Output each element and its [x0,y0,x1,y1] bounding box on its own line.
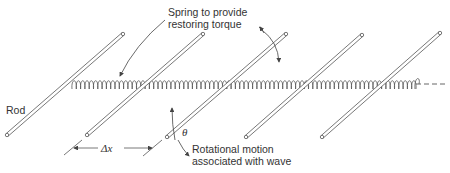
rotation-arrow-bottom-up [172,108,175,140]
rotation-label-line2: associated with wave [192,155,291,167]
spring-label-line2: restoring torque [168,18,242,30]
theta-label: θ [182,126,188,138]
rod-label: Rod [6,104,25,116]
rod-4 [244,33,363,138]
spring-pointer-arrow [120,20,165,76]
rods [5,31,441,138]
spring-coil-path [72,79,419,89]
rotation-arrow-top-head [260,27,264,33]
diagram-canvas: Spring to provide restoring torque Rod Δ… [0,0,450,173]
delta-x-label: Δx [100,142,112,154]
rotation-label-line1: Rotational motion [192,143,274,155]
dimension-tick-left [64,140,82,155]
spring [72,79,419,89]
rotation-arrow-bottom-down [178,140,189,156]
spring-label-line1: Spring to provide [168,6,248,18]
